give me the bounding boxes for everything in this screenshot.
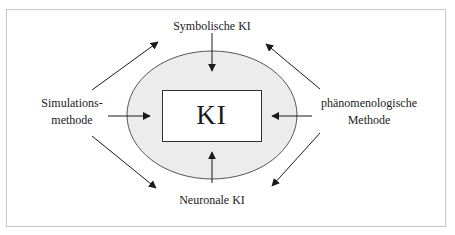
- simulation-method-line-1: Simulations-: [22, 95, 122, 112]
- ki-center-label: KI: [162, 90, 261, 141]
- phenomenological-method-line-2: Methode: [306, 112, 432, 129]
- simulation-method-label: Simulations- methode: [22, 95, 122, 129]
- phenomenological-method-label: phänomenologische Methode: [306, 95, 432, 129]
- symbolic-ki-label: Symbolische KI: [152, 18, 272, 35]
- neural-ki-label: Neuronale KI: [152, 192, 272, 209]
- simulation-method-line-2: methode: [22, 112, 122, 129]
- phenomenological-method-line-1: phänomenologische: [306, 95, 432, 112]
